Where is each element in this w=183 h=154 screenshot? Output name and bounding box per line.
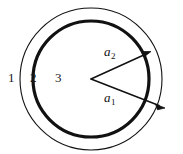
vector-a1-arrow	[91, 79, 165, 110]
figure-container: 1 2 3 a2 a1	[0, 0, 183, 154]
region-label-1: 1	[8, 71, 15, 84]
region-label-3: 3	[55, 71, 62, 84]
vector-a2-arrow	[91, 52, 151, 80]
vector-label-a2: a2	[104, 45, 115, 58]
vector-label-a2-subscript: 2	[111, 51, 116, 61]
vector-label-a1-subscript: 1	[111, 97, 116, 107]
vector-label-a2-base: a	[104, 44, 111, 59]
vector-label-a1: a1	[104, 91, 115, 104]
vector-label-a1-base: a	[104, 90, 111, 105]
concentric-circles-diagram	[0, 0, 183, 154]
region-label-2: 2	[30, 71, 37, 84]
